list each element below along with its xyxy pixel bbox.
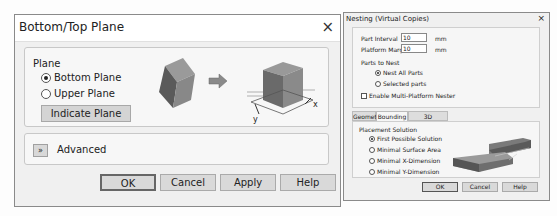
help-button[interactable]: Help [280,174,336,191]
bounding-box-panel: Placement Solution First Possible Soluti… [352,121,540,178]
radio-label: Selected parts [383,80,426,87]
nesting-settings-group: Part Interval 10 mm Platform Margin 10 m… [352,27,540,108]
radio-selected-icon[interactable] [41,73,51,83]
dialog-title: Bottom/Top Plane [19,20,124,34]
radio-label: Minimal X-Dimension [377,157,440,164]
radio-nest-all-parts[interactable]: Nest All Parts [375,69,423,76]
close-icon[interactable]: × [537,13,545,23]
axis-y-label: y [253,115,258,124]
tab-geometry[interactable]: Geometry [352,111,376,121]
radio-minimal-y[interactable]: Minimal Y-Dimension [369,168,439,175]
ok-button[interactable]: OK [100,174,156,191]
radio-selected-icon[interactable] [375,70,381,76]
platform-margin-input[interactable]: 10 [401,44,427,53]
radio-unselected-icon[interactable] [369,158,375,164]
cancel-button[interactable]: Cancel [160,174,216,191]
plane-label: Plane [33,58,60,69]
radio-label: Minimal Y-Dimension [377,168,439,175]
radio-label: Bottom Plane [54,72,121,83]
dialog-title: Nesting (Virtual Copies) [346,15,429,23]
tab-3d-bounding-box[interactable]: 3D Bounding Box [408,111,448,121]
part-interval-input[interactable]: 10 [401,33,427,42]
part-interval-label: Part Interval [361,35,398,42]
nesting-dialog: Nesting (Virtual Copies) × Part Interval… [343,12,550,201]
multi-platform-checkbox[interactable]: Enable Multi-Platform Nester [361,92,455,99]
indicate-plane-button[interactable]: Indicate Plane [41,105,131,122]
cancel-button[interactable]: Cancel [462,182,498,192]
ok-button[interactable]: OK [422,182,458,192]
radio-minimal-x[interactable]: Minimal X-Dimension [369,157,440,164]
plane-group: Plane Bottom Plane Upper Plane Indicate … [24,47,329,127]
radio-label: Minimal Surface Area [377,146,441,153]
radio-label: First Possible Solution [377,135,442,142]
expand-chevron-icon[interactable]: » [33,144,48,157]
radio-unselected-icon[interactable] [41,89,51,99]
radio-label: Upper Plane [54,88,115,99]
plane-illustration: y x [143,52,327,124]
radio-upper-plane[interactable]: Upper Plane [41,88,115,99]
arrow-right-icon [209,74,227,88]
placement-solution-label: Placement Solution [359,126,417,133]
apply-button[interactable]: Apply [220,174,276,191]
radio-bottom-plane[interactable]: Bottom Plane [41,72,121,83]
tilted-cube-icon [159,58,195,108]
close-icon[interactable]: × [321,18,334,36]
bottom-top-plane-dialog: Bottom/Top Plane × Plane Bottom Plane Up… [14,14,341,207]
aligned-cube-icon [247,62,315,114]
radio-selected-icon[interactable] [369,136,375,142]
advanced-label[interactable]: Advanced [57,144,106,155]
parts-to-nest-label: Parts to Nest [361,59,399,66]
radio-unselected-icon[interactable] [375,81,381,87]
checkbox-label: Enable Multi-Platform Nester [369,92,455,99]
radio-label: Nest All Parts [383,69,423,76]
unit-label: mm [435,35,447,42]
radio-minimal-surface[interactable]: Minimal Surface Area [369,146,441,153]
radio-selected-parts[interactable]: Selected parts [375,80,426,87]
axis-x-label: x [313,100,318,109]
radio-unselected-icon[interactable] [369,169,375,175]
unit-label: mm [435,46,447,53]
radio-first-possible[interactable]: First Possible Solution [369,135,442,142]
advanced-section: » Advanced [24,133,329,165]
radio-unselected-icon[interactable] [369,147,375,153]
checkbox-icon[interactable] [361,93,367,99]
title-bar: Bottom/Top Plane × [15,15,340,42]
bounding-box-illustration [449,128,539,176]
help-button[interactable]: Help [502,182,538,192]
